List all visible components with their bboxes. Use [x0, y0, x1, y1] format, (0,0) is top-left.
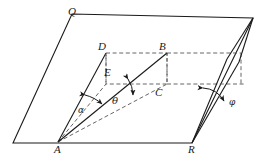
wedge-right-riser	[239, 18, 253, 62]
angle-label-phi: φ	[229, 98, 235, 107]
vertex-label-B: B	[159, 41, 166, 52]
ground-plane	[13, 14, 253, 143]
line-A-C-dashed	[58, 84, 167, 142]
wedge-left-edge	[192, 59, 227, 143]
figure-canvas	[0, 0, 263, 161]
angle-label-theta: θ	[112, 96, 118, 106]
angle-label-alpha: α	[78, 106, 84, 115]
vertex-label-Q: Q	[68, 6, 76, 17]
vertex-label-C: C	[155, 87, 162, 98]
geometry-figure: Q A R D B E C α θ φ	[0, 0, 263, 161]
rectangle-DBCE	[106, 53, 167, 84]
vertex-label-D: D	[98, 41, 106, 52]
vertex-label-A: A	[54, 144, 61, 155]
vertex-label-E: E	[104, 67, 111, 78]
line-A-D	[58, 53, 106, 142]
vertex-label-R: R	[188, 144, 195, 155]
